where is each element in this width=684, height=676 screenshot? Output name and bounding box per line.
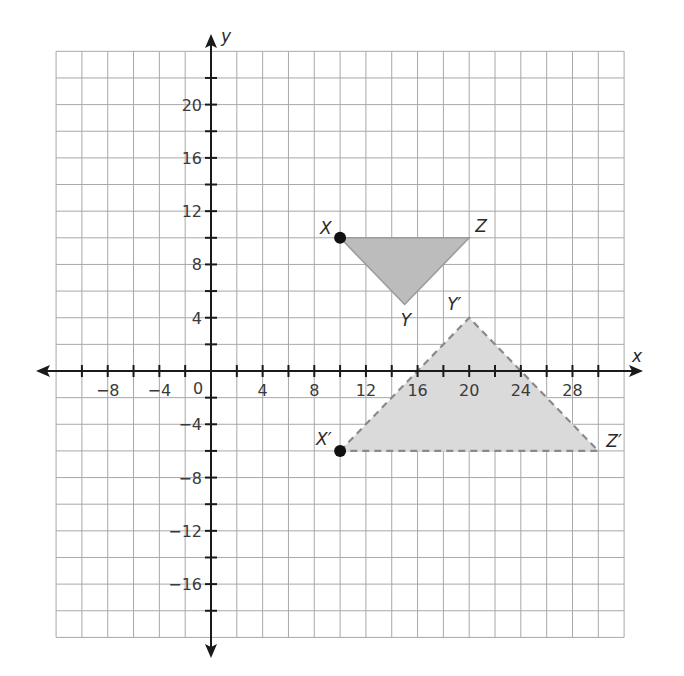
y-tick-label: 8 [192, 255, 202, 274]
x-tick-label: 8 [309, 381, 319, 400]
y-tick-label: 4 [192, 309, 202, 328]
x-tick-label: −8 [96, 381, 120, 400]
y-tick-label: −4 [178, 415, 202, 434]
vertex-label: Y [401, 310, 413, 330]
x-tick-label: 28 [562, 381, 582, 400]
x-tick-label: 4 [258, 381, 268, 400]
y-tick-label: 12 [182, 202, 202, 221]
coordinate-plane: x y 0 −8−448121620242820161284−4−8−12−16… [0, 0, 684, 676]
vertex-point [334, 445, 346, 457]
y-axis-label: y [220, 26, 232, 46]
y-tick-label: −8 [178, 469, 202, 488]
x-tick-label: 20 [459, 381, 479, 400]
x-tick-label: 24 [511, 381, 531, 400]
x-axis-label: x [631, 346, 643, 366]
origin-label: 0 [193, 379, 203, 398]
vertex-point [334, 232, 346, 244]
grid [56, 51, 624, 637]
x-tick-label: 16 [407, 381, 427, 400]
axes: x y 0 [36, 26, 643, 658]
x-tick-label: 12 [356, 381, 376, 400]
x-tick-label: −4 [148, 381, 172, 400]
vertex-label: Z′ [605, 431, 622, 451]
y-tick-label: 16 [182, 149, 202, 168]
vertex-label: Z [474, 216, 487, 236]
vertex-label: Y′ [447, 294, 461, 314]
vertex-label: X [319, 218, 332, 238]
y-tick-label: −16 [168, 575, 202, 594]
y-tick-label: −12 [168, 522, 202, 541]
y-tick-label: 20 [182, 96, 202, 115]
vertex-label: X′ [315, 429, 332, 449]
